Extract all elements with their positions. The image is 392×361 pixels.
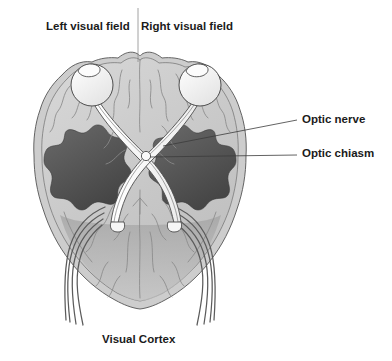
label-visual-cortex: Visual Cortex: [102, 334, 175, 346]
brain-visual-pathway-diagram: [0, 0, 392, 361]
figure-canvas: Left visual field Right visual field Opt…: [0, 0, 392, 361]
left-eye: [71, 64, 113, 106]
label-left-visual-field: Left visual field: [46, 21, 130, 33]
label-right-visual-field: Right visual field: [141, 21, 233, 33]
optic-chiasm-node: [141, 151, 150, 160]
right-tract-terminal: [167, 222, 181, 232]
right-eye: [179, 64, 221, 106]
label-optic-nerve: Optic nerve: [302, 114, 365, 126]
left-tract-terminal: [110, 222, 124, 232]
label-optic-chiasm: Optic chiasm: [302, 148, 374, 160]
